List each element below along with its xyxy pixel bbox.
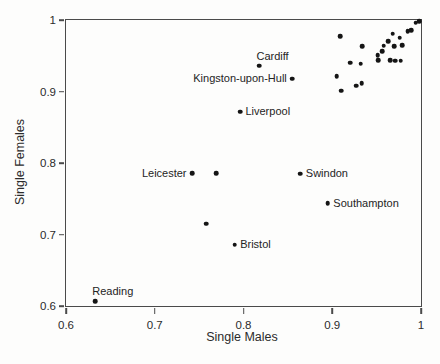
city-point-swindon — [298, 171, 303, 176]
data-point — [380, 49, 385, 54]
city-point-reading — [93, 299, 98, 304]
y-tick-label: 1 — [50, 14, 56, 26]
y-tick — [59, 162, 65, 164]
x-tick — [420, 308, 422, 314]
x-tick — [65, 308, 67, 314]
x-tick — [243, 308, 245, 314]
y-tick-label: 0.6 — [40, 300, 56, 312]
data-point — [214, 171, 219, 176]
plot-area: 0.60.70.80.910.60.70.80.91ReadingBristol… — [65, 19, 422, 307]
data-point — [334, 74, 339, 79]
data-point — [400, 43, 405, 48]
city-label-leicester: Leicester — [142, 167, 187, 180]
city-label-swindon: Swindon — [306, 167, 348, 180]
y-tick — [59, 19, 65, 21]
data-point — [417, 19, 422, 24]
data-point — [376, 58, 381, 63]
data-point — [338, 34, 343, 39]
data-point — [393, 58, 398, 63]
y-axis-title: Single Females — [13, 119, 27, 205]
city-label-bristol: Bristol — [240, 238, 271, 251]
data-point — [392, 44, 397, 49]
x-axis-title: Single Males — [206, 330, 278, 344]
data-point — [398, 58, 403, 63]
data-point — [388, 58, 393, 63]
city-label-liverpool: Liverpool — [245, 105, 290, 118]
x-tick-label: 0.7 — [147, 319, 163, 331]
city-label-kingston-upon-hull: Kingston-upon-Hull — [193, 72, 287, 85]
scatter-figure: 0.60.70.80.910.60.70.80.91ReadingBristol… — [0, 0, 440, 364]
city-point-liverpool — [238, 109, 243, 114]
city-label-cardiff: Cardiff — [256, 50, 288, 63]
data-point — [409, 28, 414, 33]
city-point-southampton — [326, 201, 331, 206]
data-point — [375, 53, 380, 58]
data-point — [359, 81, 364, 86]
x-tick — [331, 308, 333, 314]
city-point-kingston-upon-hull — [290, 76, 295, 81]
data-point — [358, 61, 363, 66]
x-tick-label: 0.6 — [58, 319, 74, 331]
data-point — [386, 39, 391, 44]
y-tick — [59, 91, 65, 93]
y-tick — [59, 305, 65, 307]
x-tick-label: 1 — [418, 319, 424, 331]
x-tick-label: 0.9 — [324, 319, 340, 331]
city-point-bristol — [232, 242, 237, 247]
data-point — [348, 61, 353, 66]
city-point-cardiff — [257, 63, 262, 68]
city-label-reading: Reading — [92, 285, 133, 298]
y-tick-label: 0.7 — [40, 229, 56, 241]
data-point — [390, 31, 395, 36]
y-tick-label: 0.9 — [40, 86, 56, 98]
data-point — [360, 44, 365, 49]
city-label-southampton: Southampton — [333, 197, 398, 210]
data-point — [397, 36, 402, 41]
data-point — [354, 83, 359, 88]
data-point — [204, 221, 209, 226]
y-tick — [59, 234, 65, 236]
data-point — [339, 88, 344, 93]
data-point — [381, 43, 386, 48]
city-point-leicester — [190, 171, 195, 176]
x-tick — [154, 308, 156, 314]
y-tick-label: 0.8 — [40, 157, 56, 169]
